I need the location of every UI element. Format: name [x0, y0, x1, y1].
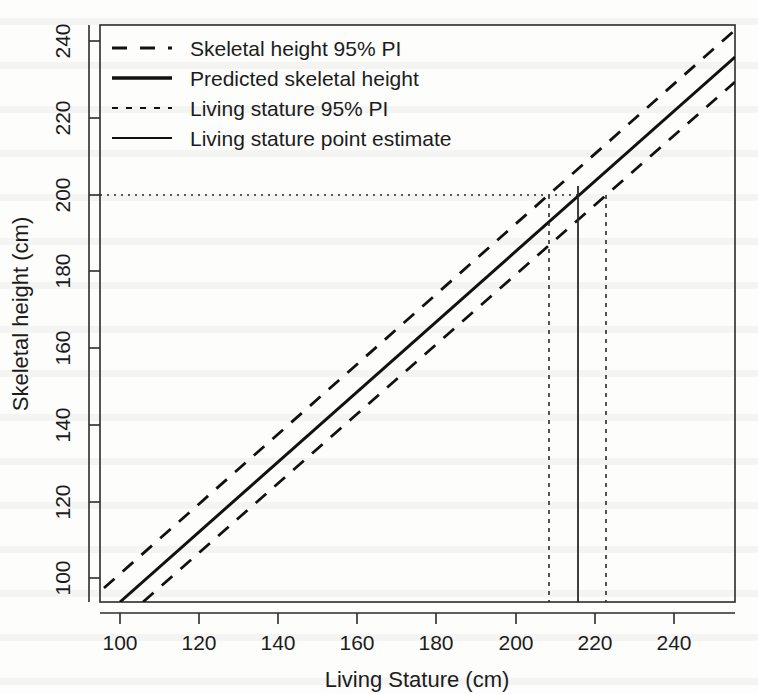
- y-axis: 100 120 140 160 180 200 220 240 Skeletal…: [8, 23, 100, 602]
- x-tick-label: 220: [577, 631, 612, 654]
- x-tick-label: 160: [339, 631, 374, 654]
- legend-item-skeletal-height-pi: Skeletal height 95% PI: [112, 37, 401, 60]
- legend-item-living-stature-point-estimate: Living stature point estimate: [112, 127, 451, 150]
- y-tick-label: 200: [51, 177, 74, 212]
- chart-page: 100 120 140 160 180 200 220 240 Living S…: [0, 0, 758, 694]
- prediction-interval-chart: 100 120 140 160 180 200 220 240 Living S…: [0, 0, 758, 694]
- x-axis-title: Living Stature (cm): [325, 667, 510, 692]
- y-tick-label: 180: [51, 253, 74, 288]
- x-tick-label: 100: [102, 631, 137, 654]
- y-tick-label: 120: [51, 484, 74, 519]
- legend-item-predicted-skeletal-height: Predicted skeletal height: [112, 67, 419, 90]
- legend-label: Living stature 95% PI: [190, 97, 388, 120]
- y-tick-label: 160: [51, 330, 74, 365]
- chart-legend: Skeletal height 95% PI Predicted skeleta…: [112, 37, 451, 150]
- y-tick-label: 100: [51, 560, 74, 595]
- x-axis: 100 120 140 160 180 200 220 240 Living S…: [100, 613, 735, 692]
- y-tick-label: 240: [51, 23, 74, 58]
- legend-label: Predicted skeletal height: [190, 67, 419, 90]
- legend-label: Living stature point estimate: [190, 127, 451, 150]
- x-tick-label: 180: [418, 631, 453, 654]
- y-tick-label: 220: [51, 100, 74, 135]
- y-axis-title: Skeletal height (cm): [8, 217, 33, 411]
- x-tick-label: 140: [260, 631, 295, 654]
- legend-label: Skeletal height 95% PI: [190, 37, 401, 60]
- x-tick-label: 240: [656, 631, 691, 654]
- legend-item-living-stature-pi: Living stature 95% PI: [112, 97, 388, 120]
- y-tick-label: 140: [51, 407, 74, 442]
- x-tick-label: 120: [181, 631, 216, 654]
- x-tick-label: 200: [498, 631, 533, 654]
- series-skeletal-height-pi-lower: [143, 82, 735, 602]
